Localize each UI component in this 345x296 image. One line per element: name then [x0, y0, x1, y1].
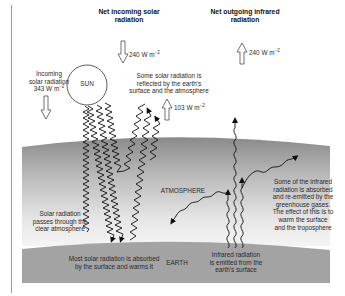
reflected-line: reflected by the earth's	[128, 80, 210, 88]
incoming-solar-arrow	[41, 96, 51, 119]
ir-emitted-line: earth's surface	[205, 266, 267, 274]
net-incoming-value: 240 W m−2	[129, 51, 160, 59]
absorbed-label: Most solar radiation is absorbed by the …	[64, 255, 164, 270]
title-net-incoming: Net incoming solar radiation	[91, 8, 167, 24]
sun-label: SUN	[77, 80, 97, 88]
greenhouse-line: radiation is absorbed	[272, 186, 334, 194]
unit-exponent: −2	[155, 50, 160, 55]
reflected-label: Some solar radiation is reflected by the…	[128, 72, 210, 95]
incoming-solar-line: Incoming	[28, 70, 70, 78]
greenhouse-line: and re-emitted by the	[272, 193, 334, 201]
reflected-line: surface and the atmosphere	[128, 87, 210, 95]
greenhouse-diagram-graphic	[0, 0, 345, 296]
absorbed-line: by the surface and warms it	[64, 263, 164, 271]
net-incoming-text: 240 W m	[129, 51, 155, 58]
net-outgoing-value: 240 W m−2	[249, 49, 280, 57]
ir-emitted-line: Infrared radiation	[205, 251, 267, 259]
ir-emitted-label: Infrared radiation is emitted from the e…	[205, 251, 267, 274]
unit-exponent: −2	[275, 48, 280, 53]
greenhouse-line: greenhouse gases.	[272, 201, 334, 209]
passes-line: Solar radiation	[30, 210, 90, 218]
greenhouse-line: The effect of this is to	[272, 208, 334, 216]
ir-emitted-line: is emitted from the	[205, 259, 267, 267]
reflected-value: 103 W m−2	[174, 104, 205, 112]
passes-line: clear atmosphere	[30, 225, 90, 233]
net-incoming-arrow	[118, 41, 128, 63]
greenhouse-line: and the troposphere	[272, 224, 334, 232]
net-outgoing-arrow	[237, 43, 247, 64]
title-net-outgoing: Net outgoing infrared radiation	[208, 8, 282, 24]
greenhouse-line: warm the surface	[272, 216, 334, 224]
earth-label: EARTH	[162, 259, 192, 267]
greenhouse-label: Some of the infrared radiation is absorb…	[272, 178, 334, 231]
passes-through-label: Solar radiation passes through the clear…	[30, 210, 90, 233]
atmosphere-label: ATMOSPHERE	[158, 187, 208, 195]
absorbed-line: Most solar radiation is absorbed	[64, 255, 164, 263]
reflected-line: Some solar radiation is	[128, 72, 210, 80]
incoming-solar-value: 343 W m−2	[28, 85, 70, 93]
greenhouse-line: Some of the infrared	[272, 178, 334, 186]
incoming-solar-label: Incoming solar radiation 343 W m−2	[28, 70, 70, 93]
reflected-arrow	[162, 99, 172, 120]
passes-line: passes through the	[30, 218, 90, 226]
net-outgoing-text: 240 W m	[249, 49, 275, 56]
